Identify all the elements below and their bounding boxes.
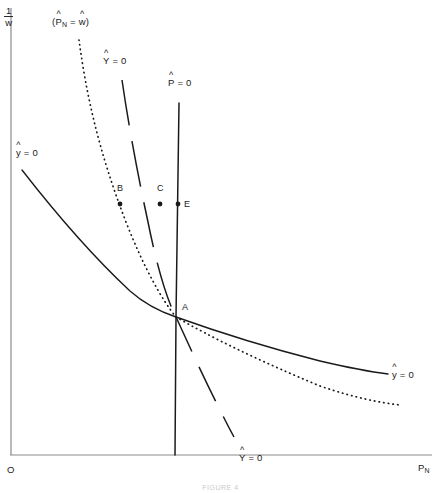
figure-container: 1 w PN O (^PN = ^w) ^Y = 0 ^Y = 0 ^P = 0… (0, 0, 441, 493)
Y-hat-glyph-top: ^Y (103, 55, 110, 66)
point-label-B: B (117, 183, 123, 193)
curve-label-Y-hat-zero-top: ^Y = 0 (103, 55, 126, 66)
point-dot-E (176, 202, 181, 207)
P-hat-glyph: ^P (168, 77, 175, 88)
plot-canvas (0, 0, 441, 493)
Y-hat-glyph-bottom: ^Y (239, 452, 246, 463)
x-axis-label-subscript: N (425, 467, 430, 474)
point-label-A: A (182, 302, 188, 312)
point-dot-C (158, 202, 163, 207)
P-eq: = 0 (177, 77, 191, 88)
hat-mark-Y-top: ^ (104, 49, 108, 58)
curve-label-Y-hat-zero-bottom: ^Y = 0 (239, 452, 262, 463)
curve-label-pn-equals-w: (^PN = ^w) (52, 16, 89, 28)
w-hat-glyph: ^w (79, 16, 86, 27)
curve-Y-hat-zero-dashed-lower (176, 317, 234, 437)
point-label-E: E (184, 199, 190, 209)
point-label-C: C (157, 183, 164, 193)
hat-mark-y-right: ^ (392, 363, 396, 372)
hat-mark-w: ^ (80, 10, 84, 19)
Y-eq-top: = 0 (112, 55, 126, 66)
y-axis-label: 1 w (4, 6, 13, 28)
curve-pn-equals-w-dotted (79, 40, 400, 405)
point-dot-B (118, 202, 123, 207)
curve-Y-hat-zero-dashed-upper (122, 80, 176, 317)
hat-mark-P: ^ (169, 71, 173, 80)
curve-label-y-hat-zero-right: ^y = 0 (392, 369, 414, 380)
y-axis-numerator: 1 (4, 6, 13, 17)
curve-y-hat-zero-solid (22, 170, 388, 374)
hat-mark-y-left: ^ (16, 141, 20, 150)
curve-P-hat-zero-vertical (175, 103, 179, 455)
x-axis-label: PN (418, 462, 430, 474)
y-eq-right: = 0 (400, 369, 414, 380)
paren-close: ) (86, 16, 89, 27)
y-eq-left: = 0 (24, 147, 38, 158)
curve-label-y-hat-zero-left: ^y = 0 (16, 147, 38, 158)
Y-eq-bottom: = 0 (248, 452, 262, 463)
hat-mark-Y-bottom: ^ (240, 446, 244, 455)
figure-caption: FIGURE 4 (0, 484, 441, 493)
hat-mark-p: ^ (56, 10, 60, 19)
p-hat-glyph: ^P (55, 16, 62, 27)
curve-label-P-hat-zero: ^P = 0 (168, 77, 191, 88)
y-hat-glyph-right: ^y (392, 369, 397, 380)
p-subscript-n: N (62, 21, 67, 28)
y-axis-denominator: w (4, 17, 13, 28)
origin-label: O (7, 464, 15, 475)
y-hat-glyph-left: ^y (16, 147, 21, 158)
equals-sign-1: = (70, 16, 76, 27)
